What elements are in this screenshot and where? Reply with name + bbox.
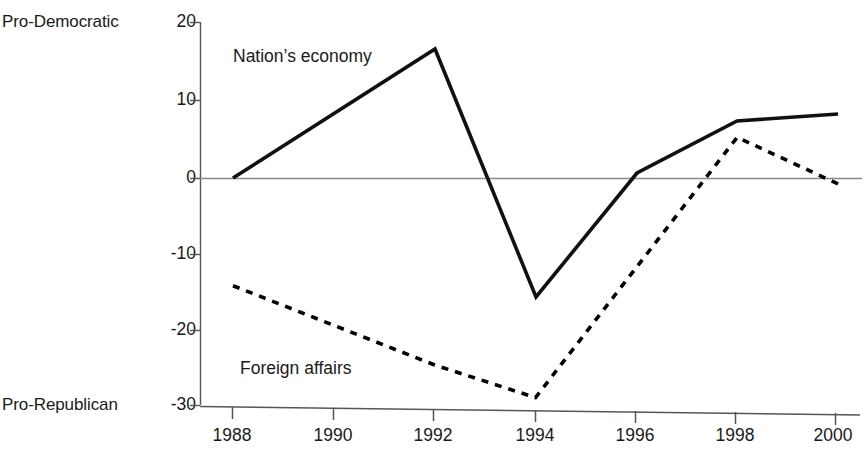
x-axis-line: [200, 407, 860, 416]
chart-figure: Pro-Democratic Pro-Republican 20 10 0 -1…: [0, 0, 866, 456]
plot-area: [0, 0, 866, 456]
series-line-nations-economy: [233, 49, 838, 297]
axes: [200, 22, 862, 415]
x-axis-ticks: [233, 407, 836, 425]
y-axis-ticks: [190, 23, 200, 406]
series-line-foreign-affairs: [233, 137, 838, 397]
